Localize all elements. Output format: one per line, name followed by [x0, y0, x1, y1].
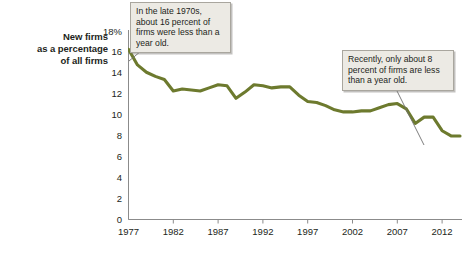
y-axis-title-line-2: as a percentage [8, 43, 108, 55]
x-tick-label: 1982 [153, 227, 193, 237]
y-tick-label: 14 [96, 68, 122, 78]
x-tick-label: 2007 [377, 227, 417, 237]
early-callout-box: In the late 1970s, about 16 percent of f… [130, 2, 231, 53]
y-tick-label: 0 [96, 215, 122, 225]
x-tick-marks [173, 220, 442, 224]
x-tick-label: 1997 [288, 227, 328, 237]
y-tick-label: 10 [96, 110, 122, 120]
y-tick-label: 8 [96, 131, 122, 141]
y-tick-label: 12 [96, 89, 122, 99]
x-tick-label: 2012 [422, 227, 462, 237]
y-tick-label: 2 [96, 194, 122, 204]
y-tick-label: 4 [96, 173, 122, 183]
y-tick-label: 6 [96, 152, 122, 162]
recent-callout-box: Recently, only about 8 percent of firms … [342, 50, 454, 91]
x-tick-label: 1992 [243, 227, 283, 237]
x-tick-label: 2002 [333, 227, 373, 237]
early-callout-text: In the late 1970s, about 16 percent of f… [136, 6, 220, 48]
y-tick-label: 16 [96, 47, 122, 57]
y-tick-label: 18% [88, 27, 122, 37]
chart-figure: New firms as a percentage of all firms 1… [0, 0, 474, 258]
y-axis-title-line-3: of all firms [8, 55, 108, 67]
x-tick-label: 1987 [198, 227, 238, 237]
recent-callout-text: Recently, only about 8 percent of firms … [348, 54, 440, 85]
x-tick-label: 1977 [109, 227, 149, 237]
